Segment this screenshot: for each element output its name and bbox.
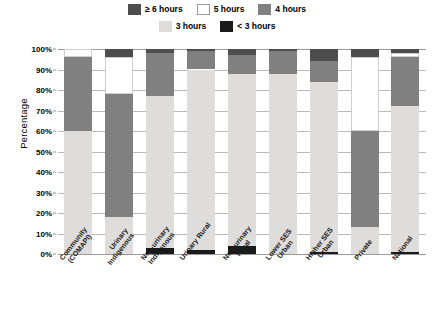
y-tick-label: 30% (36, 188, 52, 197)
bar-segment (391, 53, 419, 57)
legend-item-6-hours: ≥ 6 hours (128, 4, 183, 15)
y-tick-mark (53, 172, 56, 173)
y-tick-label: 80% (36, 86, 52, 95)
bar-segment (310, 49, 338, 61)
bar-segment (269, 51, 297, 74)
x-axis-label: Lower SESUrban (269, 255, 297, 313)
legend-swatch-6-hours-icon (128, 4, 141, 15)
legend-label-4-hours: 4 hours (275, 4, 306, 15)
bar-segment (391, 106, 419, 252)
legend-row-1: ≥ 6 hours 5 hours 4 hours (0, 1, 434, 17)
bar-private[interactable] (351, 49, 379, 254)
legend-label-under-3-hours: < 3 hours (237, 21, 275, 32)
x-axis-label: Non-urinaryRural (228, 255, 256, 313)
legend-label-6-hours: ≥ 6 hours (145, 4, 183, 15)
legend-swatch-3-hours-icon (159, 21, 172, 32)
y-tick-label: 10% (36, 229, 52, 238)
x-axis-label: National (391, 255, 419, 313)
bar-segment (269, 49, 297, 51)
x-axis-labels: Community(COMAPI)UrinaryIndigenousNon-ur… (58, 255, 426, 313)
y-tick-mark (53, 90, 56, 91)
bar-segment (64, 57, 92, 131)
x-axis-label: Private (351, 255, 379, 313)
legend-row-2: 3 hours < 3 hours (0, 18, 434, 34)
y-tick-mark (53, 49, 56, 50)
y-tick-mark (53, 131, 56, 132)
y-tick-mark (53, 233, 56, 234)
bar-segment (187, 51, 215, 69)
y-tick-label: 70% (36, 106, 52, 115)
bar-segment (105, 94, 133, 217)
bar-segment (228, 74, 256, 246)
bar-segment (269, 74, 297, 254)
plot-area: 0%10%20%30%40%50%60%70%80%90%100% (58, 49, 426, 254)
x-axis-label: Community(COMAPI) (64, 255, 92, 313)
y-tick-label: 60% (36, 127, 52, 136)
y-tick-label: 20% (36, 209, 52, 218)
bar-segment (146, 53, 174, 96)
bar-segment (105, 49, 133, 57)
x-axis-label: UrinaryIndigenous (105, 255, 133, 313)
bar-national[interactable] (391, 49, 419, 254)
bar-lower-ses-urban[interactable] (269, 49, 297, 254)
bar-segment (391, 57, 419, 106)
y-tick-mark (53, 213, 56, 214)
bar-segment (187, 49, 215, 51)
bar-segment (64, 49, 92, 57)
bar-segment (146, 96, 174, 248)
legend-swatch-4-hours-icon (258, 4, 271, 15)
y-tick-mark (53, 69, 56, 70)
chart-container: ≥ 6 hours 5 hours 4 hours 3 hours < 3 ho… (0, 0, 434, 314)
x-axis-label: Non-urinaryIndigenous (146, 255, 174, 313)
bar-urinary-indigenous[interactable] (105, 49, 133, 254)
y-tick-mark (53, 192, 56, 193)
legend-label-5-hours: 5 hours (214, 4, 245, 15)
bar-community-comapi[interactable] (64, 49, 92, 254)
y-tick-label: 40% (36, 168, 52, 177)
legend-label-3-hours: 3 hours (176, 21, 207, 32)
bar-segment (105, 57, 133, 94)
bar-segment (228, 55, 256, 73)
bar-non-urinary-rural[interactable] (228, 49, 256, 254)
y-tick-mark (53, 110, 56, 111)
bar-segment (228, 49, 256, 55)
bar-segment (351, 49, 379, 57)
y-tick-label: 0% (40, 250, 52, 259)
bar-higher-ses-urban[interactable] (310, 49, 338, 254)
legend-swatch-5-hours-icon (197, 4, 210, 15)
bar-segment (310, 82, 338, 252)
legend-item-under-3-hours: < 3 hours (220, 21, 275, 32)
bar-urinary-rural[interactable] (187, 49, 215, 254)
y-axis-ticks: 0%10%20%30%40%50%60%70%80%90%100% (24, 49, 56, 254)
legend-swatch-under-3-hours-icon (220, 21, 233, 32)
legend-item-5-hours: 5 hours (197, 4, 245, 15)
legend-item-4-hours: 4 hours (258, 4, 306, 15)
y-tick-mark (53, 254, 56, 255)
bar-non-urinary-indigenous[interactable] (146, 49, 174, 254)
bar-segment (310, 61, 338, 82)
bar-segment (351, 131, 379, 227)
y-tick-label: 100% (32, 45, 52, 54)
x-axis-label: Urinary Rural (187, 255, 215, 313)
bar-segment (391, 49, 419, 53)
y-tick-label: 90% (36, 65, 52, 74)
bar-group (58, 49, 426, 254)
legend-item-3-hours: 3 hours (159, 21, 207, 32)
bar-segment (146, 49, 174, 53)
chart-legend: ≥ 6 hours 5 hours 4 hours 3 hours < 3 ho… (0, 0, 434, 34)
bar-segment (187, 70, 215, 250)
y-tick-mark (53, 151, 56, 152)
x-axis-label: Higher SESUrban (310, 255, 338, 313)
bar-segment (351, 57, 379, 131)
y-tick-label: 50% (36, 147, 52, 156)
